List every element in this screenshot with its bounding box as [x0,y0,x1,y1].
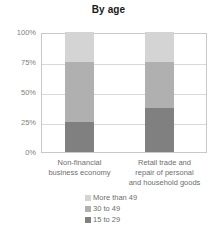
x-axis-category-label-line: Non-financial [36,158,123,168]
bar-non-financial-business-economy [65,32,94,152]
bar-segment [145,32,174,62]
bar-segment [65,32,94,62]
x-axis-category-label-line: business economy [36,168,123,178]
legend-item-15-to-29[interactable]: 15 to 29 [0,214,217,225]
x-axis-category-label-line: repair of personal [118,168,211,178]
legend-item-more-than-49[interactable]: More than 49 [0,192,217,203]
y-axis-tick-label: 25% [2,119,36,127]
y-axis-tick-label: 0% [2,149,36,157]
legend-swatch-15-to-29 [85,217,91,223]
legend-label-30-to-49: 30 to 49 [93,204,120,213]
y-axis-tick-label: 50% [2,89,36,97]
legend-swatch-30-to-49 [85,206,91,212]
y-axis-tick-label: 100% [2,29,36,37]
chart-legend: More than 49 30 to 49 15 to 29 [0,192,217,225]
legend-swatch-more-than-49 [85,195,91,201]
x-axis-category-label-line: and household goods [118,178,211,188]
plot-area [41,33,207,153]
bar-segment [65,62,94,122]
y-axis-tick-label: 75% [2,59,36,67]
chart-container: By age 100% 75% 50% 25% 0% Non-financial… [0,0,217,234]
legend-label-15-to-29: 15 to 29 [93,215,120,224]
bar-segment [65,122,94,152]
bar-segment [145,62,174,108]
x-axis-category-label-1: Retail trade andrepair of personaland ho… [118,158,211,188]
legend-label-more-than-49: More than 49 [93,193,137,202]
x-axis-category-label-0: Non-financialbusiness economy [36,158,123,178]
x-axis-category-label-line: Retail trade and [118,158,211,168]
bar-segment [145,108,174,152]
chart-title: By age [0,4,217,15]
bar-retail-trade-and-repair [145,32,174,152]
legend-item-30-to-49[interactable]: 30 to 49 [0,203,217,214]
